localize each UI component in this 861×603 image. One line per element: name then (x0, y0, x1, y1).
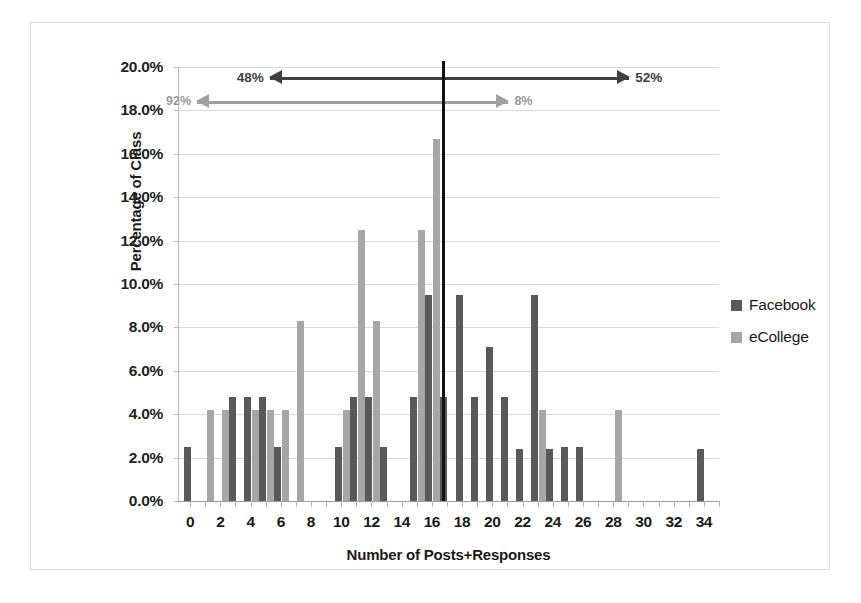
bar-ecollege-x28 (615, 410, 622, 501)
gridline-y-20.0% (179, 67, 719, 68)
legend-swatch-icon (731, 332, 742, 343)
y-tick-label: 14.0% (121, 188, 163, 206)
x-tick-label: 32 (665, 513, 681, 531)
bar-facebook-x6 (274, 447, 281, 501)
x-tick-mark (568, 501, 569, 507)
x-tick-mark (235, 501, 236, 507)
bar-ecollege-x1 (207, 410, 214, 501)
arrowhead-right-icon (496, 94, 509, 108)
bar-facebook-x34 (697, 449, 704, 501)
bar-facebook-x18 (456, 295, 463, 501)
x-tick-mark (371, 501, 372, 507)
bar-facebook-x3 (229, 397, 236, 501)
bar-ecollege-x12 (373, 321, 380, 501)
x-tick-mark (477, 501, 478, 507)
gridline-y-6.0% (179, 371, 719, 372)
x-tick-mark (462, 501, 463, 507)
gridline-y-14.0% (179, 197, 719, 198)
bar-ecollege-x7 (297, 321, 304, 501)
chart-frame: Percentage of Class 0.0%2.0%4.0%6.0%8.0%… (30, 22, 830, 570)
x-tick-mark (523, 501, 524, 507)
x-tick-mark (659, 501, 660, 507)
y-tick-mark (174, 284, 179, 285)
x-tick-mark (402, 501, 403, 507)
y-tick-mark (174, 371, 179, 372)
bar-facebook-x13 (380, 447, 387, 501)
y-tick-mark (174, 458, 179, 459)
y-tick-label: 20.0% (121, 58, 163, 76)
x-axis-title: Number of Posts+Responses (178, 546, 719, 563)
arrowhead-right-icon (617, 70, 630, 84)
y-axis-tick-labels: 0.0%2.0%4.0%6.0%8.0%10.0%12.0%14.0%16.0%… (91, 67, 171, 501)
arrowhead-left-icon (269, 70, 282, 84)
y-tick-mark (174, 414, 179, 415)
x-tick-mark (341, 501, 342, 507)
x-axis-tick-labels: 0246810121416182022242628303234 (178, 513, 719, 539)
bar-facebook-x25 (561, 447, 568, 501)
bar-ecollege-x11 (358, 230, 365, 501)
x-tick-mark (417, 501, 418, 507)
x-tick-mark (507, 501, 508, 507)
bar-facebook-x16 (425, 295, 432, 501)
gridline-y-10.0% (179, 284, 719, 285)
y-tick-label: 6.0% (129, 362, 163, 380)
median-divider-line (442, 61, 445, 502)
x-tick-label: 34 (696, 513, 712, 531)
x-tick-mark (251, 501, 252, 507)
x-tick-mark (538, 501, 539, 507)
bar-facebook-x0 (184, 447, 191, 501)
bar-facebook-x10 (335, 447, 342, 501)
y-tick-mark (174, 241, 179, 242)
bar-ecollege-x2 (222, 410, 229, 501)
x-tick-label: 24 (545, 513, 561, 531)
x-tick-label: 4 (246, 513, 254, 531)
bar-ecollege-x10 (343, 410, 350, 501)
y-tick-mark (174, 327, 179, 328)
x-tick-mark (326, 501, 327, 507)
x-tick-mark (220, 501, 221, 507)
x-tick-mark (674, 501, 675, 507)
x-tick-mark (583, 501, 584, 507)
x-tick-mark (311, 501, 312, 507)
x-tick-label: 16 (424, 513, 440, 531)
x-tick-label: 0 (186, 513, 194, 531)
bar-ecollege-x6 (282, 410, 289, 501)
x-tick-label: 30 (635, 513, 651, 531)
x-tick-mark (704, 501, 705, 507)
x-tick-mark (190, 501, 191, 507)
x-tick-label: 22 (514, 513, 530, 531)
bar-facebook-x24 (546, 449, 553, 501)
annotation-shaft (197, 101, 508, 104)
bar-ecollege-x16 (433, 139, 440, 501)
y-tick-label: 4.0% (129, 405, 163, 423)
y-tick-mark (174, 67, 179, 68)
legend-label: Facebook (749, 296, 815, 314)
x-tick-label: 20 (484, 513, 500, 531)
gridline-y-16.0% (179, 154, 719, 155)
gridline-y-18.0% (179, 110, 719, 111)
gridline-y-8.0% (179, 327, 719, 328)
bar-facebook-x22 (516, 449, 523, 501)
y-tick-mark (174, 110, 179, 111)
annotation-shaft (270, 77, 630, 80)
x-tick-mark (356, 501, 357, 507)
y-tick-mark (174, 154, 179, 155)
legend-item-facebook[interactable]: Facebook (731, 296, 851, 314)
bar-ecollege-x15 (418, 230, 425, 501)
x-tick-label: 12 (363, 513, 379, 531)
x-tick-mark (613, 501, 614, 507)
legend-swatch-icon (731, 300, 742, 311)
x-tick-mark (432, 501, 433, 507)
bar-ecollege-x4 (252, 410, 259, 501)
x-tick-mark (643, 501, 644, 507)
x-axis-line (178, 501, 719, 502)
bar-facebook-x26 (576, 447, 583, 501)
bar-facebook-x20 (486, 347, 493, 501)
legend-item-ecollege[interactable]: eCollege (731, 328, 851, 346)
bar-facebook-x5 (259, 397, 266, 501)
x-tick-mark (281, 501, 282, 507)
bar-ecollege-x23 (539, 410, 546, 501)
y-tick-label: 16.0% (121, 145, 163, 163)
x-tick-label: 14 (393, 513, 409, 531)
chart-legend: FacebookeCollege (731, 296, 851, 360)
